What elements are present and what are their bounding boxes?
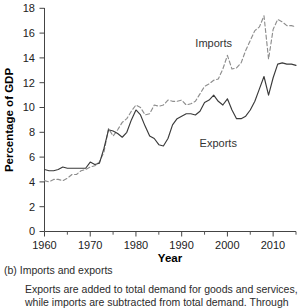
caption-label: (b) Imports and exports: [4, 264, 113, 276]
x-tick-marks: [45, 232, 297, 237]
x-tick-label-1960: 1960: [32, 239, 56, 251]
x-tick-label-2000: 2000: [215, 239, 239, 251]
y-axis-title: Percentage of GDP: [3, 68, 15, 172]
y-tick-label-10: 10: [23, 101, 35, 113]
series-label-exports: Exports: [200, 137, 238, 149]
x-axis-title: Year: [158, 252, 183, 262]
y-tick-label-18: 18: [23, 2, 35, 14]
x-tick-label-1990: 1990: [169, 239, 193, 251]
y-tick-label-0: 0: [29, 225, 35, 237]
line-chart: Percentage of GDP 0 2 4 6 8 10 12 14 16 …: [0, 0, 306, 262]
x-tick-label-1970: 1970: [78, 239, 102, 251]
y-tick-label-8: 8: [29, 126, 35, 138]
figure-caption: (b) Imports and exports Exports are adde…: [0, 262, 306, 308]
y-tick-label-6: 6: [29, 151, 35, 163]
caption-text: Exports are added to total demand for go…: [25, 283, 303, 308]
y-tick-label-14: 14: [23, 52, 35, 64]
y-tick-marks: [40, 8, 45, 231]
series-label-imports: Imports: [195, 37, 232, 49]
series-line-exports: [45, 63, 297, 171]
figure-imports-exports: Percentage of GDP 0 2 4 6 8 10 12 14 16 …: [0, 0, 306, 308]
x-tick-label-1980: 1980: [124, 239, 148, 251]
y-tick-label-16: 16: [23, 27, 35, 39]
y-tick-label-4: 4: [29, 176, 35, 188]
y-tick-label-12: 12: [23, 77, 35, 89]
y-tick-label-2: 2: [29, 201, 35, 213]
x-tick-label-2010: 2010: [261, 239, 285, 251]
series-line-imports: [45, 16, 297, 182]
